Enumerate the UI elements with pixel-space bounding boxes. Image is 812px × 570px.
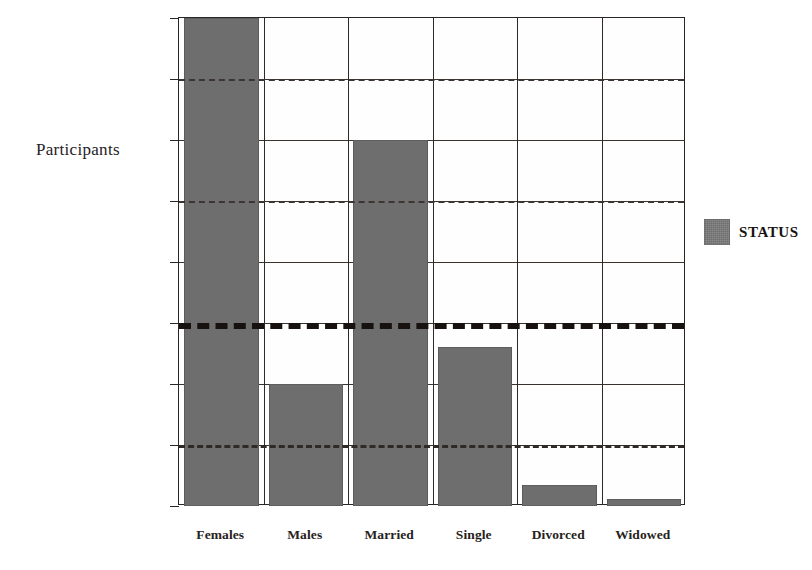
legend-swatch-status [704, 219, 730, 245]
y-axis-tick [170, 79, 179, 80]
x-axis-label-females: Females [178, 527, 263, 551]
gridline-vertical [264, 18, 265, 504]
x-axis-label-males: Males [263, 527, 348, 551]
y-axis-tick [170, 18, 179, 19]
y-axis-tick [170, 506, 179, 507]
gridline-vertical [602, 18, 603, 504]
bar-divorced [522, 485, 597, 506]
y-axis-title: Participants [36, 140, 176, 160]
plot-area [178, 17, 685, 505]
bar-single [438, 347, 513, 506]
y-axis-tick [170, 201, 179, 202]
legend: STATUS [704, 219, 799, 245]
reference-line [179, 445, 684, 448]
reference-line [179, 201, 684, 203]
reference-line [179, 79, 684, 81]
x-axis-label-divorced: Divorced [516, 527, 601, 551]
x-axis-label-married: Married [347, 527, 432, 551]
gridline-vertical [433, 18, 434, 504]
x-axis-label-widowed: Widowed [601, 527, 686, 551]
gridline-vertical [517, 18, 518, 504]
legend-label-status: STATUS [739, 224, 799, 241]
y-axis-tick [170, 140, 179, 141]
x-axis-category-labels: FemalesMalesMarriedSingleDivorcedWidowed [178, 527, 685, 551]
bar-females [184, 18, 259, 506]
gridline-vertical [348, 18, 349, 504]
y-axis-tick [170, 323, 179, 324]
bar-widowed [607, 499, 682, 506]
y-axis-tick [170, 445, 179, 446]
y-axis-tick [170, 262, 179, 263]
y-axis-tick [170, 384, 179, 385]
chart-canvas: Participants FemalesMalesMarriedSingleDi… [0, 0, 812, 570]
x-axis-label-single: Single [432, 527, 517, 551]
reference-line [179, 323, 684, 329]
